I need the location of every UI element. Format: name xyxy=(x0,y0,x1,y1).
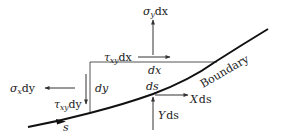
dx-label: dx xyxy=(148,64,162,77)
y-ds-label: Yds xyxy=(158,109,179,122)
sigma-y-label: σydx xyxy=(143,5,169,19)
sigma-x-label: σxdy xyxy=(10,82,36,96)
ds-label: ds xyxy=(146,80,159,93)
x-ds-label: Xds xyxy=(189,93,212,106)
tau-xy-dy-label: τxydy xyxy=(54,98,83,112)
boundary-label: Boundary xyxy=(198,52,252,91)
boundary-curve xyxy=(28,29,268,127)
boundary-diagram: σydx τxydx dx dy σxdy τxydy ds Xds Yds B… xyxy=(0,0,283,139)
tau-xy-dx-label: τxydx xyxy=(104,51,133,65)
dy-label: dy xyxy=(95,82,109,95)
s-label: s xyxy=(63,121,69,134)
